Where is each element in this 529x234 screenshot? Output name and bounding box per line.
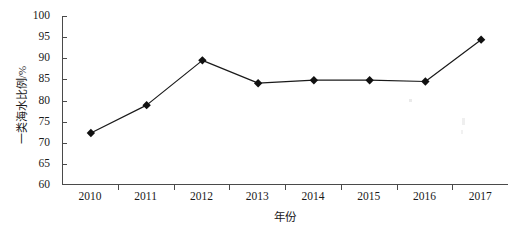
x-axis-title: 年份: [62, 208, 508, 224]
x-axis-tick-label: 2011: [134, 190, 157, 202]
x-axis-tick-mark: [341, 185, 342, 190]
y-axis-tick-mark: [62, 79, 67, 80]
data-point-marker: [254, 79, 262, 87]
y-axis-tick-mark: [62, 37, 67, 38]
y-axis-tick-label: 85: [39, 74, 51, 86]
y-axis-tick-label: 95: [39, 31, 51, 43]
x-axis-tick-mark: [118, 185, 119, 190]
x-axis-tick-label: 2013: [246, 190, 269, 202]
y-axis-tick-mark: [62, 58, 67, 59]
x-axis-tick-label: 2016: [413, 190, 436, 202]
series-line-chart: [63, 16, 509, 185]
x-axis-tick-label: 2017: [469, 190, 492, 202]
y-axis-tick-label: 90: [39, 53, 51, 65]
y-axis-tick-label: 80: [39, 95, 51, 107]
y-axis-tick-mark: [62, 164, 67, 165]
y-axis-tick-label: 100: [33, 10, 50, 22]
x-axis-tick-mark: [285, 185, 286, 190]
data-point-marker: [310, 76, 318, 84]
x-axis-tick-mark: [452, 185, 453, 190]
y-axis-tick-mark: [62, 122, 67, 123]
x-axis-tick-labels: 20102011201220132014201520162017: [62, 190, 508, 206]
data-series-line: [91, 40, 481, 133]
y-axis-tick-mark: [62, 101, 67, 102]
y-axis-tick-mark: [62, 16, 67, 17]
line-chart: 一类海水比例/% 6065707580859095100 20102011201…: [0, 0, 529, 234]
y-axis-tick-mark: [62, 143, 67, 144]
x-axis-tick-label: 2014: [301, 190, 324, 202]
x-axis-tick-label: 2015: [357, 190, 380, 202]
data-point-marker: [87, 129, 95, 137]
y-axis-tick-label: 70: [39, 137, 51, 149]
y-axis-tick-label: 75: [39, 116, 51, 128]
x-axis-tick-label: 2012: [190, 190, 213, 202]
x-axis-tick-mark: [229, 185, 230, 190]
x-axis-tick-mark: [174, 185, 175, 190]
data-point-marker: [365, 76, 373, 84]
x-axis-tick-mark: [397, 185, 398, 190]
x-axis-tick-label: 2010: [78, 190, 101, 202]
data-point-markers: [87, 35, 486, 137]
y-axis-tick-labels: 6065707580859095100: [0, 0, 58, 234]
y-axis-tick-label: 60: [39, 179, 51, 191]
y-axis-tick-label: 65: [39, 158, 51, 170]
plot-area: [62, 16, 508, 185]
